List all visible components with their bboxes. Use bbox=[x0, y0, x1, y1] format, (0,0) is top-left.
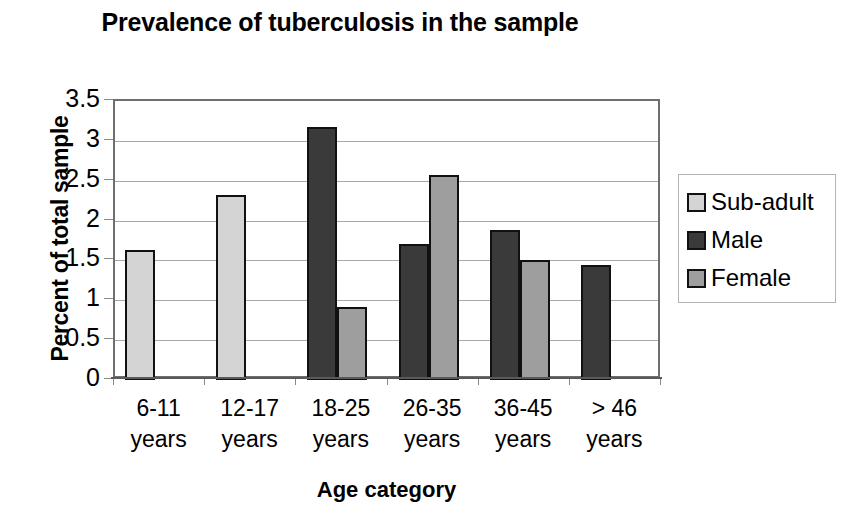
bar-male-4 bbox=[490, 230, 520, 380]
y-tick-mark bbox=[104, 139, 113, 140]
x-tick-mark bbox=[660, 378, 661, 385]
x-category-label-line2: years bbox=[569, 424, 660, 455]
legend-item-female[interactable]: Female bbox=[687, 259, 835, 297]
x-category-label-line1: 36-45 bbox=[478, 393, 569, 424]
x-axis-title: Age category bbox=[113, 477, 660, 503]
y-tick-mark bbox=[104, 298, 113, 299]
x-tick-mark bbox=[569, 378, 570, 385]
x-category-label-line2: years bbox=[295, 424, 386, 455]
y-tick-label: 3 bbox=[32, 126, 100, 151]
y-tick-label: 1.5 bbox=[32, 245, 100, 270]
x-tick-mark bbox=[387, 378, 388, 385]
chart-container: Prevalence of tuberculosis in the sample… bbox=[0, 0, 842, 517]
gridline bbox=[115, 181, 658, 182]
y-tick-mark bbox=[104, 219, 113, 220]
plot-inner bbox=[115, 101, 658, 376]
y-tick-label: 0.5 bbox=[32, 325, 100, 350]
chart-title: Prevalence of tuberculosis in the sample bbox=[0, 8, 680, 37]
legend-item-sub-adult[interactable]: Sub-adult bbox=[687, 183, 835, 221]
x-tick-mark bbox=[204, 378, 205, 385]
x-category-label: 6-11years bbox=[113, 393, 204, 455]
x-category-label-line1: 6-11 bbox=[113, 393, 204, 424]
bar-female-2 bbox=[337, 307, 367, 380]
legend-item-male[interactable]: Male bbox=[687, 221, 835, 259]
bar-male-3 bbox=[399, 244, 429, 380]
bar-male-5 bbox=[581, 265, 611, 380]
gridline bbox=[115, 221, 658, 222]
legend-swatch-male-icon bbox=[687, 231, 706, 250]
bar-male-2 bbox=[307, 127, 337, 380]
chart-legend: Sub-adultMaleFemale bbox=[678, 174, 836, 303]
x-category-label-line2: years bbox=[204, 424, 295, 455]
x-tick-mark bbox=[295, 378, 296, 385]
x-category-label-line2: years bbox=[113, 424, 204, 455]
legend-label: Male bbox=[711, 228, 763, 252]
y-tick-mark bbox=[104, 99, 113, 100]
x-category-label-line1: 18-25 bbox=[295, 393, 386, 424]
x-category-label: > 46years bbox=[569, 393, 660, 455]
legend-label: Sub-adult bbox=[711, 190, 814, 214]
gridline bbox=[115, 340, 658, 341]
bar-sub-adult-1 bbox=[216, 195, 246, 380]
gridline bbox=[115, 300, 658, 301]
y-tick-label: 3.5 bbox=[32, 86, 100, 111]
x-axis-baseline bbox=[111, 377, 662, 379]
y-tick-label: 2 bbox=[32, 206, 100, 231]
y-tick-label: 2.5 bbox=[32, 166, 100, 191]
legend-swatch-sub-adult-icon bbox=[687, 193, 706, 212]
plot-area bbox=[113, 99, 660, 378]
y-tick-label: 0 bbox=[32, 365, 100, 390]
y-tick-mark bbox=[104, 258, 113, 259]
x-category-label-line1: > 46 bbox=[569, 393, 660, 424]
x-category-label-line2: years bbox=[478, 424, 569, 455]
x-tick-mark bbox=[478, 378, 479, 385]
x-category-label: 12-17years bbox=[204, 393, 295, 455]
y-tick-mark bbox=[104, 179, 113, 180]
gridline bbox=[115, 141, 658, 142]
bar-female-3 bbox=[429, 175, 459, 380]
bar-female-4 bbox=[520, 260, 550, 380]
x-tick-mark bbox=[113, 378, 114, 385]
x-category-label: 18-25years bbox=[295, 393, 386, 455]
x-category-label-line2: years bbox=[387, 424, 478, 455]
x-category-label: 36-45years bbox=[478, 393, 569, 455]
x-category-label-line1: 12-17 bbox=[204, 393, 295, 424]
legend-swatch-female-icon bbox=[687, 269, 706, 288]
x-category-label-line1: 26-35 bbox=[387, 393, 478, 424]
y-tick-mark bbox=[104, 338, 113, 339]
bar-sub-adult-0 bbox=[125, 250, 155, 380]
legend-label: Female bbox=[711, 266, 791, 290]
gridline bbox=[115, 260, 658, 261]
x-category-label: 26-35years bbox=[387, 393, 478, 455]
y-tick-label: 1 bbox=[32, 285, 100, 310]
